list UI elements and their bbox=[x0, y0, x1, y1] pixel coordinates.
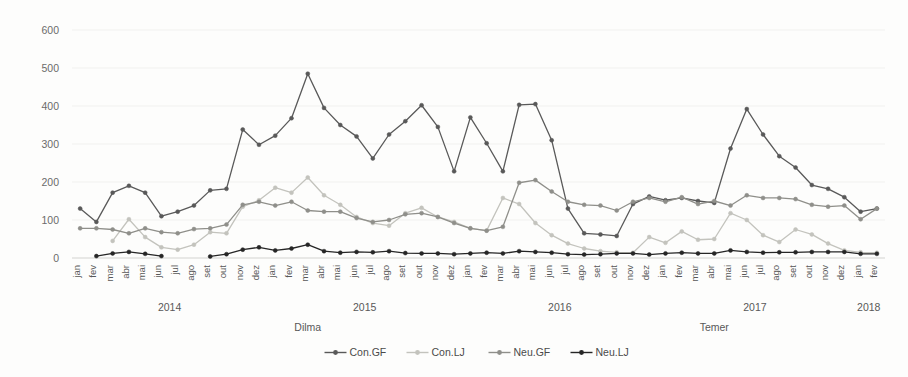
x-year-label: 2017 bbox=[743, 301, 767, 313]
period-label-temer: Temer bbox=[700, 321, 730, 333]
data-point bbox=[777, 250, 781, 254]
data-point bbox=[159, 214, 163, 218]
data-point bbox=[842, 195, 846, 199]
data-point bbox=[663, 241, 667, 245]
data-point bbox=[826, 250, 830, 254]
data-point bbox=[94, 254, 98, 258]
data-point bbox=[794, 250, 798, 254]
data-point bbox=[192, 243, 196, 247]
data-point bbox=[810, 250, 814, 254]
y-tick-0: 0 bbox=[53, 252, 59, 264]
legend-item-con-lj[interactable]: Con.LJ bbox=[407, 346, 465, 358]
data-point bbox=[810, 203, 814, 207]
data-point bbox=[859, 217, 863, 221]
chart-legend: Con.GFCon.LJNeu.GFNeu.LJ bbox=[325, 346, 629, 358]
data-point bbox=[875, 252, 879, 256]
data-point bbox=[257, 245, 261, 249]
data-point bbox=[680, 195, 684, 199]
x-month-label: fev bbox=[478, 265, 489, 278]
data-point bbox=[290, 200, 294, 204]
x-month-label: jun bbox=[152, 265, 163, 279]
data-point bbox=[355, 216, 359, 220]
data-point bbox=[436, 215, 440, 219]
x-month-label: nov bbox=[429, 265, 440, 281]
data-point bbox=[663, 251, 667, 255]
data-point bbox=[842, 204, 846, 208]
x-year-label: 2016 bbox=[548, 301, 572, 313]
data-point bbox=[208, 230, 212, 234]
data-point bbox=[550, 233, 554, 237]
line-chart-figure: 0100200300400500600 janfevmarabrmaijunju… bbox=[0, 0, 908, 377]
period-label-dilma: Dilma bbox=[294, 321, 321, 333]
legend-label: Neu.GF bbox=[514, 346, 551, 358]
data-point bbox=[615, 209, 619, 213]
data-point bbox=[78, 207, 82, 211]
data-point bbox=[338, 123, 342, 127]
series-line-neu-lj bbox=[210, 245, 877, 257]
data-point bbox=[176, 231, 180, 235]
data-point bbox=[387, 218, 391, 222]
x-month-label: dez bbox=[640, 265, 651, 281]
data-point bbox=[452, 169, 456, 173]
data-point bbox=[403, 212, 407, 216]
x-month-label: set bbox=[787, 265, 798, 278]
data-point bbox=[306, 243, 310, 247]
data-point bbox=[696, 251, 700, 255]
data-point bbox=[598, 204, 602, 208]
data-point bbox=[306, 72, 310, 76]
x-month-label: fev bbox=[868, 265, 879, 278]
data-point bbox=[143, 235, 147, 239]
data-point bbox=[94, 220, 98, 224]
x-month-label: out bbox=[803, 265, 814, 279]
data-point bbox=[468, 251, 472, 255]
data-point bbox=[436, 125, 440, 129]
y-tick-400: 400 bbox=[41, 100, 59, 112]
legend-swatch-marker bbox=[579, 350, 584, 355]
data-point bbox=[159, 245, 163, 249]
x-year-label: 2018 bbox=[857, 301, 881, 313]
x-month-label: fev bbox=[283, 265, 294, 278]
data-point bbox=[224, 231, 228, 235]
data-point bbox=[485, 141, 489, 145]
data-point bbox=[680, 229, 684, 233]
legend-swatch-marker bbox=[333, 350, 338, 355]
data-point bbox=[631, 251, 635, 255]
x-month-label: jul bbox=[364, 265, 375, 276]
data-point bbox=[826, 205, 830, 209]
data-point bbox=[371, 156, 375, 160]
legend-item-con-gf[interactable]: Con.GF bbox=[325, 346, 387, 358]
x-month-label: set bbox=[591, 265, 602, 278]
chart-canvas: 0100200300400500600 janfevmarabrmaijunju… bbox=[0, 0, 908, 377]
data-point bbox=[761, 233, 765, 237]
data-point bbox=[729, 211, 733, 215]
data-point bbox=[712, 237, 716, 241]
data-point bbox=[859, 210, 863, 214]
data-point bbox=[712, 251, 716, 255]
data-point bbox=[647, 235, 651, 239]
legend-item-neu-gf[interactable]: Neu.GF bbox=[489, 346, 551, 358]
data-point bbox=[810, 183, 814, 187]
data-point bbox=[420, 103, 424, 107]
x-month-label: mar bbox=[104, 265, 115, 281]
data-point bbox=[729, 147, 733, 151]
y-tick-200: 200 bbox=[41, 176, 59, 188]
x-axis-year-labels: 20142015201620172018 bbox=[158, 301, 881, 313]
data-point bbox=[436, 251, 440, 255]
data-point bbox=[290, 247, 294, 251]
data-point bbox=[290, 191, 294, 195]
data-point bbox=[761, 251, 765, 255]
data-point bbox=[598, 252, 602, 256]
data-point bbox=[468, 226, 472, 230]
x-month-label: mai bbox=[331, 265, 342, 280]
data-point bbox=[290, 116, 294, 120]
x-year-label: 2014 bbox=[158, 301, 182, 313]
data-point bbox=[501, 251, 505, 255]
x-month-label: ago bbox=[380, 265, 391, 281]
legend-item-neu-lj[interactable]: Neu.LJ bbox=[571, 346, 629, 358]
data-point bbox=[143, 191, 147, 195]
x-month-label: out bbox=[608, 265, 619, 279]
x-month-label: ago bbox=[575, 265, 586, 281]
data-point bbox=[582, 203, 586, 207]
data-point bbox=[338, 251, 342, 255]
data-point bbox=[566, 200, 570, 204]
